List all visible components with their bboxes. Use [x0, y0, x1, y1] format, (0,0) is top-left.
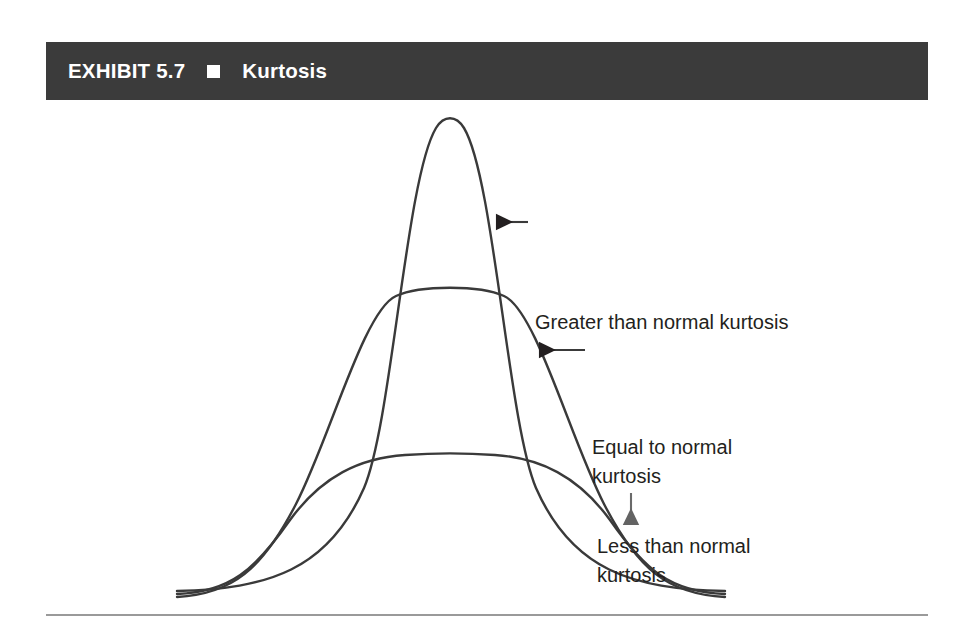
exhibit-header-bar: EXHIBIT 5.7 Kurtosis — [46, 42, 928, 100]
square-bullet-icon — [207, 65, 220, 78]
annotation-greater-than-normal: Greater than normal kurtosis — [535, 308, 788, 337]
footer-divider-rule — [46, 614, 928, 616]
annotation-less-than-normal: Less than normal kurtosis — [597, 532, 750, 590]
exhibit-number-label: EXHIBIT 5.7 — [68, 59, 185, 83]
kurtosis-curves-svg — [0, 100, 977, 620]
curve-leptokurtic — [177, 118, 725, 591]
exhibit-title: Kurtosis — [242, 59, 327, 83]
kurtosis-figure: Greater than normal kurtosis Equal to no… — [0, 100, 977, 620]
annotation-equal-to-normal: Equal to normal kurtosis — [592, 433, 732, 491]
